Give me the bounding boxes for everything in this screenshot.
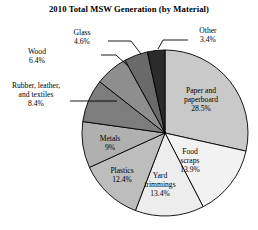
slice-label-plastics-value: 12.4% xyxy=(100,176,144,185)
slice-label-metals: Metals 9% xyxy=(88,135,132,153)
slice-label-rubber-value: 8.4% xyxy=(2,100,70,109)
slice-label-glass: Glass 4.6% xyxy=(60,29,104,47)
leader-line-other xyxy=(158,40,188,49)
slice-label-other-value: 3.4% xyxy=(186,36,230,45)
slice-label-glass-value: 4.6% xyxy=(60,38,104,47)
slice-label-wood-value: 6.4% xyxy=(15,57,59,66)
slice-label-wood: Wood 6.4% xyxy=(15,48,59,66)
slice-label-paper-value: 28.5% xyxy=(172,105,230,114)
pie-chart-figure: 2010 Total MSW Generation (by Material) … xyxy=(0,0,258,230)
slice-label-paper-and-paperboard: Paper and paperboard 28.5% xyxy=(172,87,230,113)
slice-label-yard-value: 13.4% xyxy=(134,190,186,199)
leader-line-glass xyxy=(108,41,141,54)
slice-label-food-scraps: Food scraps 13.9% xyxy=(168,148,212,174)
slice-label-rubber-leather-textiles: Rubber, leather, and textiles 8.4% xyxy=(2,82,70,108)
slice-label-metals-value: 9% xyxy=(88,144,132,153)
slice-label-plastics: Plastics 12.4% xyxy=(100,167,144,185)
slice-label-other: Other 3.4% xyxy=(186,27,230,45)
